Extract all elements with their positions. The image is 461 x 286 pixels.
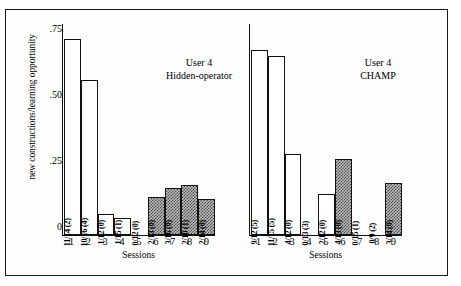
x-axis-ticks-hidden-operator: 1 2 3 4 5 6 7 8 9 [63,237,215,247]
x-tick: 4 [301,237,318,247]
bar[interactable]: 3/14 (0) [385,183,402,235]
bar[interactable]: 3/16 (0) [165,188,182,235]
bar-slot: 11/15 (5) [268,24,285,235]
x-tick: 9 [198,237,215,247]
bar[interactable]: 0/13 (3) [301,234,318,235]
bar[interactable]: 11/15 (5) [268,56,285,235]
x-tick: 7 [351,237,368,247]
bar[interactable]: 2/14 (0) [198,199,215,235]
bar-slot: 0/13 (3) [301,24,318,235]
x-axis-title-hidden-operator: Sessions [62,251,215,261]
bar[interactable]: 2/13 (0) [148,197,165,235]
x-tick: 8 [181,237,198,247]
x-tick: 3 [284,237,301,247]
x-tick: 9 [385,237,402,247]
bar[interactable]: 4/13 (0) [335,159,352,235]
bar[interactable]: 10/16 (4) [81,80,98,235]
x-tick: 6 [334,237,351,247]
bar[interactable]: 0/15 (1) [352,234,369,235]
caption-hidden-operator: User 4 Hidden-operator [144,56,254,82]
bar[interactable]: 1/12 (0) [98,214,115,235]
bar[interactable]: 11/14 (2) [64,39,81,235]
x-tick: 4 [114,237,131,247]
x-tick: 5 [318,237,335,247]
x-tick: 2 [80,237,97,247]
y-axis-ticks: .75 .50 .25 0 [18,10,62,277]
y-axis-title: new constructions/learning opportunity [28,2,38,212]
x-tick: 5 [131,237,148,247]
x-axis-ticks-champ: 1 2 3 4 5 6 7 8 9 [250,237,402,247]
bar[interactable]: 1/15 (1) [114,218,131,235]
x-tick: 1 [63,237,80,247]
bar-slot: 4/12 (0) [285,24,302,235]
bar[interactable]: 2/12 (0) [318,194,335,235]
x-tick: 3 [97,237,114,247]
bar-slot: 1/15 (1) [114,24,131,235]
caption-champ: User 4 CHAMP [328,56,428,82]
bar[interactable]: 4/12 (0) [285,154,302,235]
x-tick: 8 [368,237,385,247]
y-tick-label-0: 0 [28,222,62,232]
caption-condition-label: CHAMP [328,69,428,82]
x-tick: 2 [267,237,284,247]
bar-slot: 1/12 (0) [98,24,115,235]
figure-frame: .75 .50 .25 0 new constructions/learning… [5,9,448,276]
caption-user-label: User 4 [186,57,212,68]
bar[interactable]: 0/12 (0) [131,234,148,235]
bar-slot: 11/14 (2) [64,24,81,235]
x-tick: 6 [147,237,164,247]
x-tick: 1 [250,237,267,247]
bar[interactable]: 0/9 (2) [368,234,385,235]
x-tick: 7 [164,237,181,247]
caption-user-label: User 4 [365,57,391,68]
x-axis-title-champ: Sessions [249,251,402,261]
bar-slot: 10/16 (4) [81,24,98,235]
caption-condition-label: Hidden-operator [144,69,254,82]
bar[interactable]: 2/10 (1) [181,185,198,235]
